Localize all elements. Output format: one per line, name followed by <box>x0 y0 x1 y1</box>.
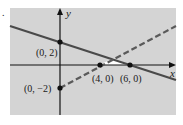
label-0-2: (0, 2) <box>36 47 58 59</box>
figure-marker: . <box>2 7 5 18</box>
label-0-neg2: (0, −2) <box>24 83 51 95</box>
label-6-0: (6, 0) <box>120 73 142 85</box>
point-0-neg2 <box>57 85 62 90</box>
point-4-0 <box>97 62 102 67</box>
point-6-0 <box>127 62 132 67</box>
shaded-region <box>10 8 176 115</box>
point-0-2 <box>57 39 62 44</box>
inequality-graph: . x y (0, 2) (0, −2) (4, 0) (6, 0) <box>0 0 183 125</box>
y-axis-label: y <box>65 7 71 19</box>
label-4-0: (4, 0) <box>92 73 114 85</box>
